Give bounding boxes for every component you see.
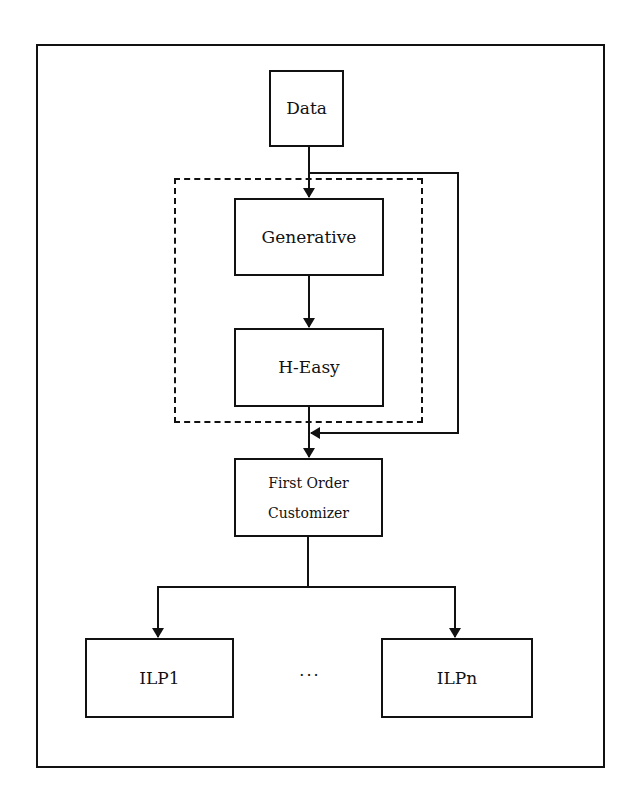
node-ilp1: ILP1 bbox=[85, 638, 234, 718]
node-generative: Generative bbox=[234, 198, 384, 276]
node-h-easy: H-Easy bbox=[234, 328, 384, 407]
node-data: Data bbox=[269, 70, 344, 147]
node-foc-line2: Customizer bbox=[268, 506, 349, 520]
node-ilpn-label: ILPn bbox=[437, 670, 477, 687]
node-first-order-customizer: First Order Customizer bbox=[234, 458, 383, 537]
node-ilpn: ILPn bbox=[381, 638, 533, 718]
node-foc-line1: First Order bbox=[268, 476, 348, 490]
ellipsis: ··· bbox=[290, 666, 330, 685]
node-h-easy-label: H-Easy bbox=[278, 359, 339, 376]
node-generative-label: Generative bbox=[262, 229, 357, 246]
node-ilp1-label: ILP1 bbox=[139, 670, 179, 687]
node-data-label: Data bbox=[286, 100, 327, 117]
